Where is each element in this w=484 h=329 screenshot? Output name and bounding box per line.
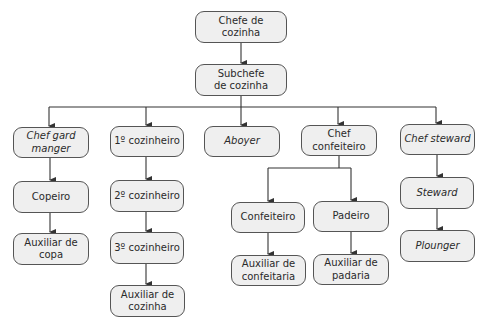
node-label: Auxiliar de copa bbox=[24, 237, 77, 262]
node-label: Chef gard manger bbox=[26, 130, 75, 155]
node-label: Confeiteiro bbox=[241, 211, 296, 224]
node-aboyer: Aboyer bbox=[204, 126, 280, 157]
node-label: Aboyer bbox=[224, 135, 260, 148]
node-copeiro: Copeiro bbox=[13, 181, 89, 213]
node-label: Chefe de cozinha bbox=[219, 15, 264, 40]
node-chef-steward: Chef steward bbox=[400, 124, 475, 155]
node-label: 3º cozinheiro bbox=[114, 242, 180, 255]
node-padeiro: Padeiro bbox=[313, 201, 389, 232]
node-auxiliar-de-cozinha: Auxiliar de cozinha bbox=[110, 285, 185, 317]
node-2o-cozinheiro: 2º cozinheiro bbox=[110, 180, 184, 212]
node-label: 1º cozinheiro bbox=[114, 135, 180, 148]
node-plounger: Plounger bbox=[400, 230, 475, 262]
node-auxiliar-de-copa: Auxiliar de copa bbox=[13, 233, 89, 265]
node-steward: Steward bbox=[400, 177, 474, 209]
node-label: Chef steward bbox=[404, 133, 470, 146]
node-confeiteiro: Confeiteiro bbox=[231, 202, 305, 233]
node-auxiliar-de-padaria: Auxiliar de padaria bbox=[313, 254, 389, 285]
node-label: Padeiro bbox=[333, 210, 370, 223]
node-chef-confeiteiro: Chef confeiteiro bbox=[301, 125, 377, 156]
node-auxiliar-de-confeitaria: Auxiliar de confeitaria bbox=[231, 255, 306, 286]
node-1o-cozinheiro: 1º cozinheiro bbox=[110, 126, 184, 157]
node-chefe-de-cozinha: Chefe de cozinha bbox=[195, 11, 287, 43]
node-label: Subchefe de cozinha bbox=[214, 68, 268, 93]
node-label: Steward bbox=[416, 187, 457, 200]
node-subchefe-de-cozinha: Subchefe de cozinha bbox=[195, 64, 287, 96]
node-label: Auxiliar de confeitaria bbox=[242, 258, 295, 283]
node-chef-gard-manger: Chef gard manger bbox=[13, 127, 89, 158]
node-label: Chef confeiteiro bbox=[312, 128, 365, 153]
node-label: Auxiliar de cozinha bbox=[121, 289, 174, 314]
node-label: Copeiro bbox=[32, 191, 70, 204]
node-label: 2º cozinheiro bbox=[114, 190, 180, 203]
node-label: Auxiliar de padaria bbox=[324, 257, 377, 282]
org-chart-kitchen-brigade: Chefe de cozinha Subchefe de cozinha Che… bbox=[0, 0, 484, 329]
node-label: Plounger bbox=[415, 240, 459, 253]
node-3o-cozinheiro: 3º cozinheiro bbox=[110, 232, 184, 264]
